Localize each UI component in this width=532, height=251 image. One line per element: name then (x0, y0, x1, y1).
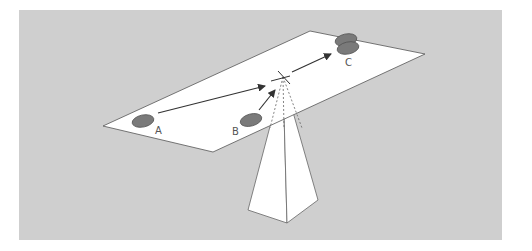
balance-diagram: A B C (0, 0, 532, 251)
label-a: A (155, 125, 162, 136)
label-b: B (232, 126, 239, 137)
label-c: C (345, 57, 352, 68)
